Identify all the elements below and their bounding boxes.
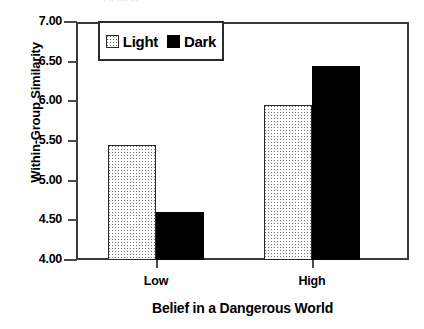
bar-low-dark bbox=[156, 212, 204, 260]
y-tick-mark bbox=[64, 21, 77, 23]
y-tick-label: 4.50 bbox=[16, 212, 62, 226]
y-tick-label: 5.00 bbox=[16, 173, 62, 187]
y-tick-mark bbox=[64, 259, 77, 261]
x-tick-mark bbox=[312, 260, 314, 268]
x-tick-mark bbox=[156, 260, 158, 268]
x-axis-title: Belief in a Dangerous World bbox=[76, 300, 409, 316]
chart-legend: Light Dark bbox=[98, 21, 224, 61]
scan-artifact-text: · ·· ···· ··· bbox=[104, 0, 224, 5]
y-axis-title: Within-Group Similarity bbox=[28, 0, 43, 228]
x-tick-label-high: High bbox=[262, 274, 362, 288]
light-swatch-icon bbox=[106, 35, 119, 48]
y-tick-mark bbox=[68, 61, 77, 63]
y-tick-label: 4.00 bbox=[16, 252, 62, 266]
legend-label-dark: Dark bbox=[184, 34, 216, 49]
y-tick-mark bbox=[68, 180, 77, 182]
legend-label-light: Light bbox=[123, 34, 158, 49]
legend-entry-light: Light bbox=[106, 34, 158, 49]
dark-swatch-icon bbox=[167, 35, 180, 48]
y-tick-mark bbox=[68, 219, 77, 221]
y-tick-mark bbox=[68, 140, 77, 142]
y-tick-label: 7.00 bbox=[16, 14, 62, 28]
bar-high-light bbox=[264, 105, 312, 260]
bar-low-light bbox=[108, 145, 156, 260]
bar-chart-figure: · ·· ···· ··· Within-Group Similarity 4.… bbox=[0, 0, 424, 329]
y-tick-label: 6.00 bbox=[16, 93, 62, 107]
bar-high-dark bbox=[312, 66, 360, 260]
y-tick-label: 5.50 bbox=[16, 133, 62, 147]
y-tick-label: 6.50 bbox=[16, 54, 62, 68]
legend-entry-dark: Dark bbox=[167, 34, 216, 49]
y-tick-mark bbox=[68, 100, 77, 102]
x-tick-label-low: Low bbox=[106, 274, 206, 288]
